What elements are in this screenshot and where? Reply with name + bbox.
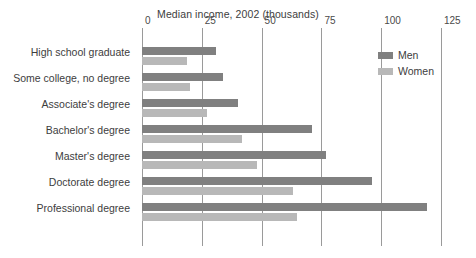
x-tick-label: 50: [262, 15, 276, 26]
bar-men: [142, 47, 216, 55]
bar-row: [142, 200, 441, 226]
category-axis-labels: High school graduateSome college, no deg…: [0, 28, 138, 246]
category-label: Some college, no degree: [13, 72, 130, 84]
bar-women: [142, 187, 293, 195]
bar-men: [142, 177, 372, 185]
bar-row: [142, 122, 441, 148]
gridline-125: [441, 28, 442, 246]
bar-row: [142, 96, 441, 122]
bar-men: [142, 73, 223, 81]
bar-women: [142, 213, 297, 221]
legend-swatch-icon: [378, 52, 393, 59]
x-tick-label: 125: [441, 15, 461, 26]
bar-men: [142, 151, 326, 159]
bar-men: [142, 203, 427, 211]
legend-label: Women: [398, 65, 434, 77]
bar-women: [142, 135, 242, 143]
chart-title: Median income, 2002 (thousands): [0, 8, 476, 20]
category-label: Professional degree: [37, 202, 130, 214]
category-label: Bachelor's degree: [46, 124, 130, 136]
bar-row: [142, 174, 441, 200]
bar-women: [142, 109, 207, 117]
bar-row: [142, 148, 441, 174]
bar-women: [142, 161, 257, 169]
bar-men: [142, 125, 312, 133]
legend-swatch-icon: [378, 68, 393, 75]
category-label: High school graduate: [31, 46, 130, 58]
legend-item-women: Women: [378, 64, 434, 78]
x-tick-label: 100: [381, 15, 401, 26]
x-tick-label: 0: [142, 15, 151, 26]
bar-men: [142, 99, 238, 107]
x-tick-label: 75: [321, 15, 335, 26]
legend-item-men: Men: [378, 48, 434, 62]
category-label: Master's degree: [55, 150, 130, 162]
chart-container: Median income, 2002 (thousands) High sch…: [0, 0, 476, 258]
x-tick-label: 25: [202, 15, 216, 26]
chart-legend: MenWomen: [378, 48, 434, 80]
category-label: Doctorate degree: [49, 176, 130, 188]
bar-women: [142, 83, 190, 91]
plot-area: MenWomen: [142, 28, 441, 246]
category-label: Associate's degree: [42, 98, 130, 110]
bar-women: [142, 57, 187, 65]
legend-label: Men: [398, 49, 418, 61]
